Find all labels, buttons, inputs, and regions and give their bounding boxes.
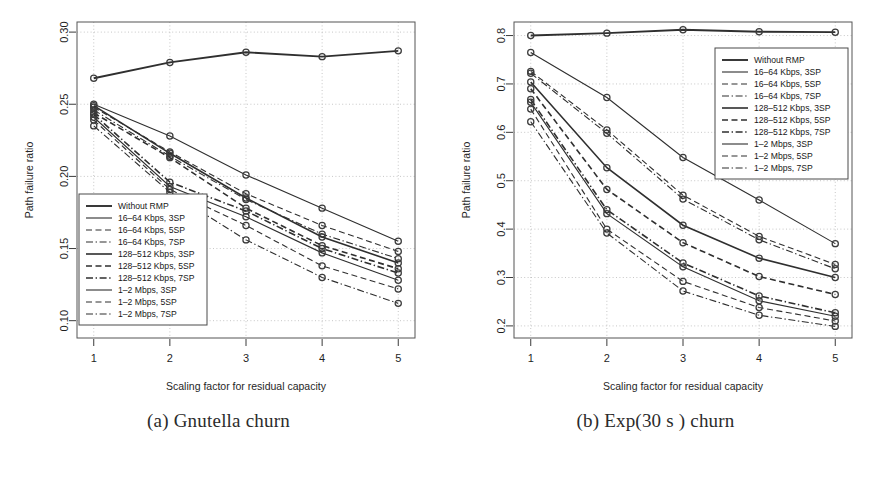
- legend-item-label: 1–2 Mbps, 7SP: [118, 309, 177, 319]
- x-tick-label: 4: [756, 352, 762, 364]
- legend-item-label: 128–512 Kbps, 5SP: [118, 261, 195, 271]
- figure-captions: (a) Gnutella churn (b) Exp(30 s ) churn: [0, 400, 875, 478]
- legend-item-label: 128–512 Kbps, 3SP: [118, 249, 195, 259]
- legend-item-label: Without RMP: [118, 201, 169, 211]
- y-tick-label: 0.10: [58, 310, 70, 331]
- y-tick-label: 0.2: [495, 318, 507, 333]
- legend-item-label: 16–64 Kbps, 7SP: [754, 91, 821, 101]
- legend-item-label: 128–512 Kbps, 7SP: [118, 273, 195, 283]
- legend-item-label: 16–64 Kbps, 7SP: [118, 237, 185, 247]
- chart-a-svg: 123450.100.150.200.250.30Scaling factor …: [0, 0, 437, 400]
- legend-item-label: 1–2 Mbps, 5SP: [118, 297, 177, 307]
- panel-b-exp30s-churn: 123450.20.30.40.50.60.70.8Scaling factor…: [437, 0, 874, 400]
- y-tick-label: 0.7: [495, 76, 507, 91]
- x-axis-title: Scaling factor for residual capacity: [603, 380, 764, 392]
- y-tick-label: 0.30: [58, 21, 70, 42]
- y-tick-label: 0.8: [495, 28, 507, 43]
- panel-a-gnutella-churn: 123450.100.150.200.250.30Scaling factor …: [0, 0, 437, 400]
- legend-item-label: 16–64 Kbps, 5SP: [754, 79, 821, 89]
- legend-item-label: Without RMP: [754, 55, 805, 65]
- x-tick-label: 2: [167, 352, 173, 364]
- figure-container: 123450.100.150.200.250.30Scaling factor …: [0, 0, 875, 478]
- y-axis-title: Path failure ratio: [460, 142, 472, 219]
- caption-panel-b: (b) Exp(30 s ) churn: [437, 400, 874, 478]
- chart-legend: Without RMP16–64 Kbps, 3SP16–64 Kbps, 5S…: [715, 48, 848, 179]
- legend-item-label: 16–64 Kbps, 3SP: [754, 67, 821, 77]
- x-tick-label: 4: [319, 352, 325, 364]
- x-tick-label: 5: [832, 352, 838, 364]
- chart-legend: Without RMP16–64 Kbps, 3SP16–64 Kbps, 5S…: [79, 194, 207, 325]
- legend-item-label: 128–512 Kbps, 3SP: [754, 103, 831, 113]
- x-tick-label: 5: [395, 352, 401, 364]
- y-tick-label: 0.4: [495, 221, 507, 236]
- x-axis-title: Scaling factor for residual capacity: [166, 380, 327, 392]
- x-tick-label: 1: [91, 352, 97, 364]
- legend-item-label: 1–2 Mbps, 3SP: [754, 139, 813, 149]
- x-tick-label: 1: [528, 352, 534, 364]
- legend-item-label: 1–2 Mbps, 3SP: [118, 285, 177, 295]
- x-tick-label: 3: [243, 352, 249, 364]
- y-axis-title: Path failure ratio: [23, 142, 35, 219]
- legend-item-label: 1–2 Mbps, 5SP: [754, 151, 813, 161]
- caption-panel-a: (a) Gnutella churn: [0, 400, 437, 478]
- x-tick-label: 2: [604, 352, 610, 364]
- y-tick-label: 0.5: [495, 173, 507, 188]
- legend-item-label: 1–2 Mbps, 7SP: [754, 163, 813, 173]
- legend-item-label: 16–64 Kbps, 3SP: [118, 213, 185, 223]
- y-tick-label: 0.3: [495, 270, 507, 285]
- chart-panels: 123450.100.150.200.250.30Scaling factor …: [0, 0, 875, 400]
- legend-item-label: 16–64 Kbps, 5SP: [118, 225, 185, 235]
- x-tick-label: 3: [680, 352, 686, 364]
- chart-b-svg: 123450.20.30.40.50.60.70.8Scaling factor…: [437, 0, 874, 400]
- legend-item-label: 128–512 Kbps, 7SP: [754, 127, 831, 137]
- y-tick-label: 0.15: [58, 238, 70, 259]
- legend-item-label: 128–512 Kbps, 5SP: [754, 115, 831, 125]
- y-tick-label: 0.6: [495, 125, 507, 140]
- y-tick-label: 0.20: [58, 166, 70, 187]
- y-tick-label: 0.25: [58, 94, 70, 115]
